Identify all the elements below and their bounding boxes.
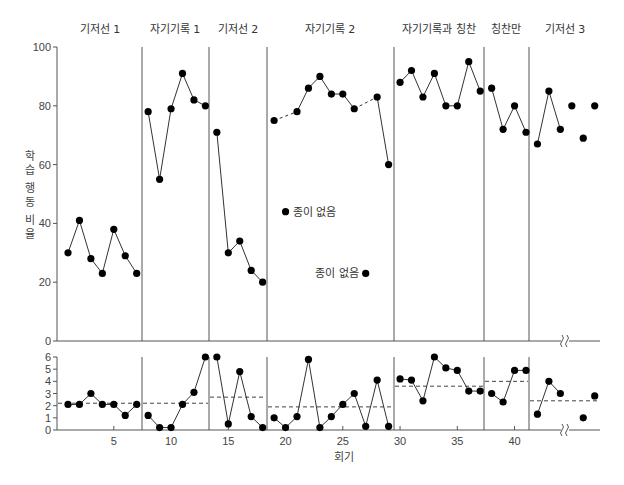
upper-panel-series [64,58,598,286]
no-paper-label: 종이 없음 [315,267,359,280]
data-point [431,70,438,77]
data-point [87,390,94,397]
data-point [580,414,587,421]
data-point [442,102,449,109]
data-point [190,96,197,103]
no-paper-annotations: 종이 없음종이 없음 [282,206,369,281]
data-point [76,401,83,408]
data-point [431,353,438,360]
data-point [179,401,186,408]
data-point [248,267,255,274]
x-tick-label: 20 [279,435,291,447]
data-line [79,220,90,258]
data-point [328,90,335,97]
data-point [99,401,106,408]
data-point [145,412,152,419]
data-line [434,73,445,105]
data-point [522,129,529,136]
data-point [442,364,449,371]
data-point [500,398,507,405]
data-point [305,356,312,363]
lower-panel-axes: 0123456510152025303540 [45,351,600,447]
data-line [228,372,239,424]
data-line [377,97,388,165]
data-point [454,367,461,374]
x-tick-label: 10 [165,435,177,447]
x-tick-label: 25 [337,435,349,447]
data-line [102,229,113,273]
data-point [351,390,358,397]
data-point [179,70,186,77]
data-line [171,404,182,427]
data-line [308,359,319,427]
data-point [408,67,415,74]
y-tick-label: 3 [45,388,51,400]
data-point [500,126,507,133]
data-point [534,140,541,147]
data-point [362,270,369,277]
data-point [454,102,461,109]
data-point [213,353,220,360]
data-line [423,73,434,97]
data-point [534,411,541,418]
data-line [515,106,526,132]
data-point [385,161,392,168]
data-point [282,424,289,431]
data-point [190,389,197,396]
axis-break-icon [566,424,569,436]
y-tick-label: 60 [39,159,51,171]
data-point [259,424,266,431]
data-point [385,423,392,430]
data-line [183,73,194,99]
dashed-connector [354,97,377,109]
data-point [339,401,346,408]
phase-label: 자기기록과 칭찬 [402,22,476,36]
y-tick-label: 80 [39,100,51,112]
data-line [537,381,548,414]
data-line [297,88,308,112]
phase-label: 자기기록 2 [305,23,356,36]
x-tick-label: 40 [508,435,520,447]
data-point [511,102,518,109]
data-point [477,88,484,95]
data-line [68,220,79,252]
data-point [362,423,369,430]
data-line [503,370,514,402]
data-line [423,357,434,401]
data-point [145,108,152,115]
data-point [225,249,232,256]
data-point [396,79,403,86]
data-point [271,117,278,124]
data-point [122,412,129,419]
data-point [76,217,83,224]
data-point [213,129,220,136]
phase-label: 기저선 1 [80,23,121,36]
data-line [537,91,548,144]
y-tick-label: 1 [45,412,51,424]
upper-panel-axes: 020406080100 [33,41,600,347]
data-point [316,424,323,431]
data-point [87,255,94,262]
data-line [160,109,171,180]
data-line [297,359,308,416]
x-tick-label: 35 [451,435,463,447]
data-point [202,102,209,109]
data-point [465,58,472,65]
data-point [591,102,598,109]
data-point [545,88,552,95]
data-line [412,71,423,97]
data-line [171,73,182,108]
y-tick-label: 5 [45,363,51,375]
data-line [114,229,125,255]
y-tick-label: 20 [39,276,51,288]
data-line [217,357,228,424]
data-point [488,85,495,92]
data-line [469,62,480,91]
data-line [194,357,205,392]
data-point [156,176,163,183]
y-tick-label: 100 [33,41,51,53]
axis-break-icon [566,335,569,347]
data-line [492,88,503,129]
data-point [374,93,381,100]
data-line [354,394,365,427]
